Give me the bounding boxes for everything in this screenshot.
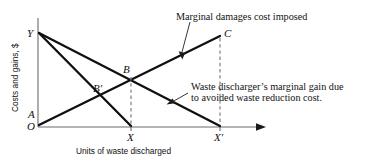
annotation-marginal-damages: Marginal damages cost imposed xyxy=(176,11,307,22)
label-x: X xyxy=(126,131,135,143)
label-a: A xyxy=(27,108,35,120)
label-x-prime: X′ xyxy=(213,131,224,143)
x-axis-arrowhead xyxy=(256,123,266,131)
annotation-gain-line-1: Waste discharger’s marginal gain due xyxy=(191,81,344,92)
leader-gain xyxy=(172,93,188,102)
y-axis-title: Costs and gains, $ xyxy=(10,43,20,112)
x-axis-title: Units of waste discharged xyxy=(76,146,171,156)
label-y: Y xyxy=(27,27,35,39)
annotation-gain-line-2: to avoided waste reduction cost. xyxy=(191,92,322,103)
leader-damages xyxy=(182,22,190,52)
label-b: B xyxy=(123,63,130,75)
label-origin: O xyxy=(27,120,35,132)
economics-diagram: Y A O B B′ C X X′ Marginal damages cost … xyxy=(0,0,370,163)
label-c: C xyxy=(224,27,232,39)
figure-container: Y A O B B′ C X X′ Marginal damages cost … xyxy=(0,0,370,163)
label-b-prime: B′ xyxy=(93,82,103,94)
marginal-gain-steep-line xyxy=(39,33,131,126)
